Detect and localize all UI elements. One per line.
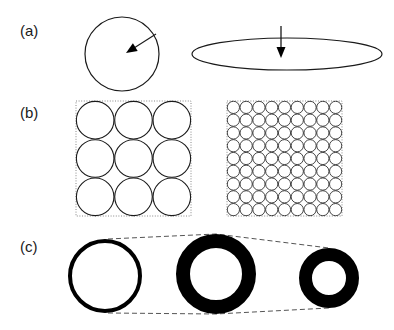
- packed-circle: [330, 140, 342, 152]
- circle-outline: [85, 17, 159, 91]
- semi-axis-arrow: [277, 26, 286, 58]
- packed-circle: [291, 178, 303, 190]
- figure-container: (a) (b): [0, 0, 394, 330]
- packed-circle: [227, 178, 239, 190]
- packed-circle: [317, 101, 329, 113]
- packed-circle: [240, 101, 252, 113]
- packed-circle: [330, 204, 342, 216]
- packed-circle: [266, 204, 278, 216]
- packed-circle: [227, 191, 239, 203]
- packed-circle: [330, 101, 342, 113]
- packed-circle: [317, 152, 329, 164]
- packed-circle: [330, 114, 342, 126]
- panel-c: (c): [20, 234, 353, 314]
- packed-circle: [291, 140, 303, 152]
- packed-circle: [330, 178, 342, 190]
- packed-circle: [330, 191, 342, 203]
- packed-circle: [153, 178, 191, 216]
- packed-circle: [253, 204, 265, 216]
- packed-circle: [240, 127, 252, 139]
- packed-circle: [304, 114, 316, 126]
- packed-circle: [227, 101, 239, 113]
- semi-axis-arrow-head: [277, 47, 286, 58]
- packed-circle: [253, 165, 265, 177]
- packed-circle: [304, 178, 316, 190]
- packed-circle: [153, 101, 191, 139]
- radius-arrow-head: [126, 43, 138, 53]
- panel-b: (b): [20, 101, 342, 216]
- packed-circle: [330, 152, 342, 164]
- packed-circle: [317, 127, 329, 139]
- fine-packing-box: [227, 101, 342, 216]
- packed-circle: [240, 140, 252, 152]
- packed-circle: [278, 127, 290, 139]
- packed-circle: [278, 191, 290, 203]
- packed-circle: [253, 101, 265, 113]
- packed-circle: [115, 140, 153, 178]
- packed-circle: [76, 178, 114, 216]
- packed-circle: [278, 165, 290, 177]
- packed-circle: [291, 191, 303, 203]
- packed-circle: [227, 114, 239, 126]
- fine-packing-border: [227, 101, 342, 216]
- packed-circle: [266, 101, 278, 113]
- packed-circle: [304, 101, 316, 113]
- panel-b-label: (b): [20, 104, 38, 121]
- packed-circle: [304, 165, 316, 177]
- annulus-rings: [70, 241, 353, 311]
- packed-circle: [76, 101, 114, 139]
- packed-circle: [227, 127, 239, 139]
- packed-circle: [317, 178, 329, 190]
- packed-circle: [278, 101, 290, 113]
- packed-circle: [253, 127, 265, 139]
- panel-a-label: (a): [20, 22, 38, 39]
- packed-circle: [240, 114, 252, 126]
- packed-circle: [153, 140, 191, 178]
- ring-medium: [183, 241, 249, 307]
- packed-circle: [304, 127, 316, 139]
- packed-circle: [253, 114, 265, 126]
- ring-thick: [306, 255, 353, 302]
- fine-packing-circles: [227, 101, 341, 215]
- packed-circle: [291, 127, 303, 139]
- panel-c-label: (c): [20, 238, 38, 255]
- coarse-packing-border: [76, 101, 191, 216]
- packed-circle: [240, 152, 252, 164]
- packed-circle: [266, 140, 278, 152]
- figure-canvas: (a) (b): [0, 0, 394, 330]
- radius-arrow: [126, 34, 156, 53]
- packed-circle: [115, 178, 153, 216]
- packed-circle: [291, 101, 303, 113]
- packed-circle: [317, 165, 329, 177]
- packed-circle: [227, 152, 239, 164]
- packed-circle: [304, 152, 316, 164]
- packed-circle: [253, 152, 265, 164]
- packed-circle: [266, 114, 278, 126]
- packed-circle: [317, 114, 329, 126]
- packed-circle: [291, 204, 303, 216]
- packed-circle: [278, 152, 290, 164]
- packed-circle: [317, 191, 329, 203]
- packed-circle: [76, 140, 114, 178]
- packed-circle: [253, 140, 265, 152]
- packed-circle: [278, 140, 290, 152]
- packed-circle: [266, 127, 278, 139]
- radius-arrow-shaft: [134, 34, 156, 48]
- packed-circle: [317, 140, 329, 152]
- coarse-packing-circles: [76, 101, 190, 215]
- packed-circle: [227, 165, 239, 177]
- packed-circle: [304, 204, 316, 216]
- packed-circle: [266, 165, 278, 177]
- packed-circle: [227, 204, 239, 216]
- packed-circle: [227, 140, 239, 152]
- packed-circle: [278, 204, 290, 216]
- packed-circle: [240, 191, 252, 203]
- packed-circle: [278, 114, 290, 126]
- packed-circle: [330, 165, 342, 177]
- packed-circle: [253, 191, 265, 203]
- coarse-packing-box: [76, 101, 191, 216]
- packed-circle: [240, 165, 252, 177]
- packed-circle: [253, 178, 265, 190]
- packed-circle: [266, 178, 278, 190]
- packed-circle: [278, 178, 290, 190]
